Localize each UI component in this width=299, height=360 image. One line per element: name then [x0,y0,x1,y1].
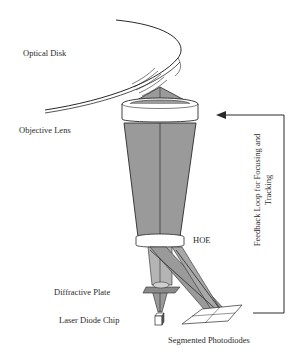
label-feedback-line2: Tracking [263,95,274,285]
optical-pickup-diagram: Optical Disk Objective Lens HOE Diffract… [0,0,299,360]
label-optical-disk: Optical Disk [23,49,66,58]
label-diffractive-plate: Diffractive Plate [54,288,110,297]
label-objective-lens: Objective Lens [19,126,71,135]
hoe-element [136,234,184,247]
label-hoe: HOE [193,236,210,245]
label-feedback-line1: Feedback Loop for Focusing and [252,95,263,285]
label-segmented-photodiodes: Segmented Photodiodes [168,336,250,345]
main-beam [124,123,196,237]
label-laser-diode-chip: Laser Diode Chip [59,316,119,325]
segmented-photodiodes [182,305,242,324]
label-feedback-loop: Feedback Loop for Focusing and Tracking [252,95,273,285]
feedback-loop-arrow [216,111,284,313]
objective-lens [122,98,198,122]
diffractive-plate [143,282,180,293]
laser-diode-chip [155,313,164,325]
lower-beams [148,247,226,316]
